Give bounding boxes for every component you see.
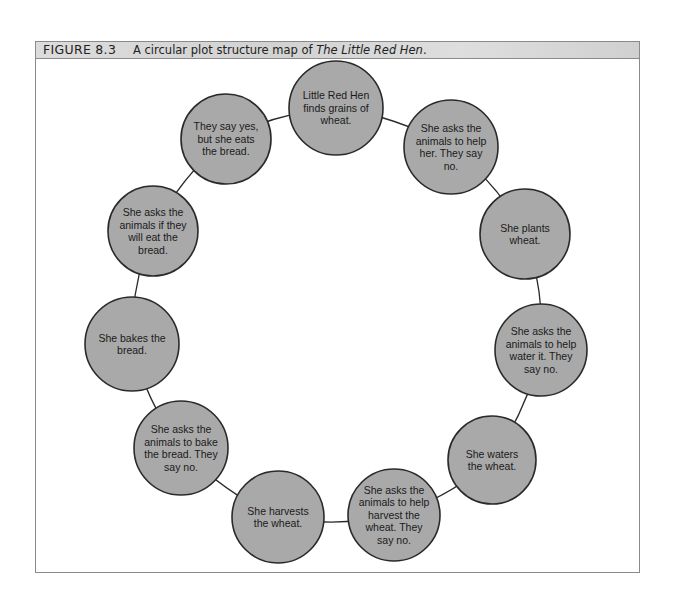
plot-node-text: She waters the wheat. bbox=[454, 416, 531, 504]
plot-node-text: Little Red Hen finds grains of wheat. bbox=[295, 61, 377, 155]
plot-node-text: She asks the animals if they will eat th… bbox=[114, 186, 193, 276]
plot-node-text: She harvests the wheat. bbox=[238, 471, 319, 563]
plot-node-text: She asks the animals to help harvest the… bbox=[354, 469, 435, 561]
plot-node-text: They say yes, but she eats the bread. bbox=[187, 94, 266, 184]
plot-node-text: She bakes the bread. bbox=[91, 297, 173, 391]
plot-node-text: She asks the animals to help water it. T… bbox=[501, 304, 582, 396]
plot-node-text: She asks the animals to bake the bread. … bbox=[140, 401, 222, 495]
plot-node-text: She asks the animals to help her. They s… bbox=[410, 100, 492, 194]
plot-node-text: She plants wheat. bbox=[486, 189, 565, 279]
